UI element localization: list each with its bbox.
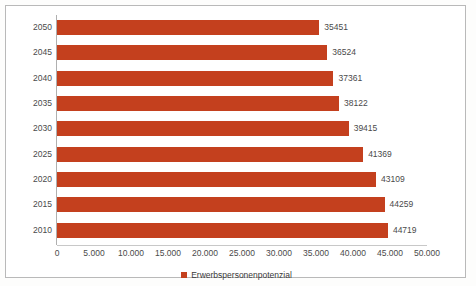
y-axis-category-labels: 205020452040203520302025202020152010 [6,15,52,243]
bar-row: 44259 [57,192,427,217]
bar-value-label: 37361 [333,71,362,86]
bar-row: 44719 [57,218,427,243]
x-axis-tick-35.000: 35.000 [303,248,329,258]
bar-row: 41369 [57,142,427,167]
legend-label-erwerbspersonenpotenzial: Erwerbspersonenpotenzial [191,270,292,280]
bar-erwerbspersonenpotenzial[interactable] [57,172,376,187]
x-axis-tick-30.000: 30.000 [266,248,292,258]
bar-row: 35451 [57,15,427,40]
bar-value-label: 44719 [388,223,417,238]
bar-row: 39415 [57,116,427,141]
plot-area: 3545136524373613812239415413694310944259… [57,15,427,243]
y-axis-label-2010: 2010 [8,218,52,243]
y-axis-label-2040: 2040 [8,66,52,91]
bar-track: 41369 [57,147,427,162]
bar-erwerbspersonenpotenzial[interactable] [57,20,319,35]
bar-track: 39415 [57,121,427,136]
y-axis-label-2020: 2020 [8,167,52,192]
bar-erwerbspersonenpotenzial[interactable] [57,45,327,60]
bar-value-label: 44259 [385,197,414,212]
bar-track: 35451 [57,20,427,35]
bar-erwerbspersonenpotenzial[interactable] [57,147,363,162]
x-axis-tick-0: 0 [55,248,60,258]
x-axis-tick-15.000: 15.000 [155,248,181,258]
x-axis-tick-50.000: 50.000 [414,248,440,258]
bar-track: 36524 [57,45,427,60]
bar-erwerbspersonenpotenzial[interactable] [57,96,339,111]
x-axis-tick-10.000: 10.000 [118,248,144,258]
bar-erwerbspersonenpotenzial[interactable] [57,121,349,136]
x-axis-tick-40.000: 40.000 [340,248,366,258]
bar-value-label: 43109 [376,172,405,187]
chart-legend: Erwerbspersonenpotenzial [6,268,467,282]
bar-row: 37361 [57,66,427,91]
bar-erwerbspersonenpotenzial[interactable] [57,223,388,238]
y-axis-label-2035: 2035 [8,91,52,116]
bar-track: 43109 [57,172,427,187]
x-axis-tick-45.000: 45.000 [377,248,403,258]
bar-track: 38122 [57,96,427,111]
bar-track: 44719 [57,223,427,238]
y-axis-label-2015: 2015 [8,192,52,217]
bar-track: 37361 [57,71,427,86]
bar-value-label: 41369 [363,147,392,162]
bar-value-label: 35451 [319,20,348,35]
bar-row: 43109 [57,167,427,192]
y-axis-label-2050: 2050 [8,15,52,40]
bar-erwerbspersonenpotenzial[interactable] [57,71,333,86]
legend-swatch-erwerbspersonenpotenzial [181,272,187,278]
bar-value-label: 36524 [327,45,356,60]
chart-figure: 205020452040203520302025202020152010 354… [0,0,476,286]
y-axis-label-2030: 2030 [8,116,52,141]
x-axis-tick-5.000: 5.000 [83,248,104,258]
y-axis-label-2045: 2045 [8,40,52,65]
bar-erwerbspersonenpotenzial[interactable] [57,197,385,212]
bar-row: 36524 [57,40,427,65]
bar-track: 44259 [57,197,427,212]
bar-row: 38122 [57,91,427,116]
chart-frame: 205020452040203520302025202020152010 354… [5,5,466,278]
x-axis-tick-labels: 05.00010.00015.00020.00025.00030.00035.0… [57,248,427,262]
x-axis-line [57,245,427,246]
x-axis-tick-25.000: 25.000 [229,248,255,258]
y-axis-label-2025: 2025 [8,142,52,167]
bar-value-label: 39415 [349,121,378,136]
bar-value-label: 38122 [339,96,368,111]
x-axis-tick-20.000: 20.000 [192,248,218,258]
